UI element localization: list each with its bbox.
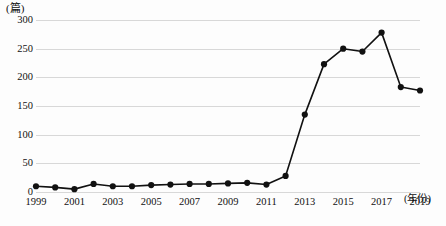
data-point-marker <box>302 112 308 118</box>
data-point-marker <box>33 183 39 189</box>
x-tick-label: 2013 <box>294 196 315 208</box>
x-tick-label: 2017 <box>371 196 392 208</box>
data-point-marker <box>91 181 97 187</box>
x-axis-unit-label: (年份) <box>404 193 431 205</box>
y-tick-label: 200 <box>3 71 33 82</box>
y-axis-tick-labels: 050100150200250300 <box>0 20 33 192</box>
data-point-marker <box>225 180 231 186</box>
data-point-marker <box>379 30 385 36</box>
data-point-marker <box>417 87 423 93</box>
data-point-marker <box>263 181 269 187</box>
x-tick-label: 2007 <box>179 196 200 208</box>
chart-container: (篇) 050100150200250300 19992001200320052… <box>0 0 446 226</box>
x-axis-tick-labels: 1999200120032005200720092011201320152017… <box>36 196 420 212</box>
y-tick-label: 100 <box>3 129 33 140</box>
data-point-marker <box>340 46 346 52</box>
x-tick-label: 2001 <box>64 196 85 208</box>
plot-area <box>36 20 420 192</box>
x-tick-label: 2005 <box>141 196 162 208</box>
line-series <box>36 20 420 192</box>
series-markers <box>33 30 423 193</box>
data-point-marker <box>129 183 135 189</box>
y-tick-label: 50 <box>3 157 33 168</box>
data-point-marker <box>167 181 173 187</box>
data-point-marker <box>148 182 154 188</box>
data-point-marker <box>359 48 365 54</box>
gridline-0 <box>36 192 420 193</box>
data-point-marker <box>110 183 116 189</box>
data-point-marker <box>283 173 289 179</box>
x-tick-label: 1999 <box>26 196 47 208</box>
data-point-marker <box>52 184 58 190</box>
x-tick-label: 2011 <box>256 196 277 208</box>
y-tick-label: 300 <box>3 14 33 25</box>
data-point-marker <box>206 181 212 187</box>
series-line-path <box>36 33 420 190</box>
y-tick-label: 150 <box>3 100 33 111</box>
data-point-marker <box>71 186 77 192</box>
x-tick-label: 2009 <box>218 196 239 208</box>
data-point-marker <box>398 84 404 90</box>
x-tick-label: 2015 <box>333 196 354 208</box>
x-tick-label: 2003 <box>102 196 123 208</box>
data-point-marker <box>244 180 250 186</box>
y-tick-label: 250 <box>3 43 33 54</box>
data-point-marker <box>187 181 193 187</box>
data-point-marker <box>321 61 327 67</box>
